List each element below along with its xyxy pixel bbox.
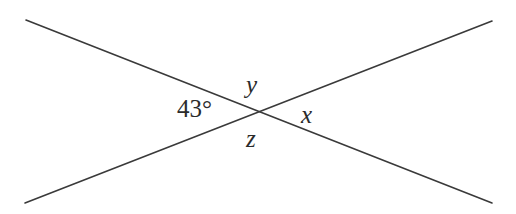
angle-label-z: z	[246, 126, 256, 151]
geometry-diagram-canvas: 43° y x z	[0, 0, 516, 214]
intersecting-lines-svg	[0, 0, 516, 214]
angle-label-43-degrees: 43°	[177, 96, 212, 121]
angle-label-x: x	[301, 102, 312, 127]
angle-label-y: y	[246, 72, 257, 97]
